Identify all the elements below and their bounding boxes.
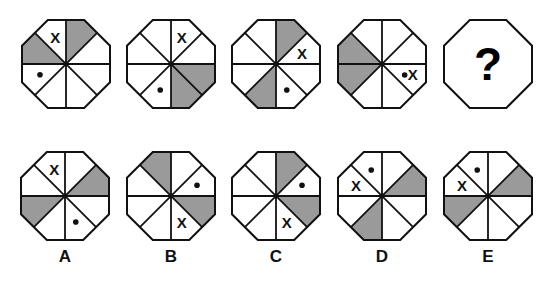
dot-marker: [37, 72, 43, 78]
x-marker: X: [408, 66, 418, 83]
x-marker: X: [457, 177, 467, 194]
center-point: [274, 62, 279, 67]
option-label: B: [165, 247, 177, 266]
center-point: [169, 62, 174, 67]
center-point: [486, 194, 491, 199]
option-label: D: [376, 247, 388, 266]
x-marker: X: [50, 29, 60, 46]
dot-marker: [368, 167, 374, 173]
dot-marker: [194, 182, 200, 188]
x-marker: X: [282, 214, 292, 231]
answer-option-a[interactable]: XA: [21, 152, 109, 266]
sequence-figure-2: X: [127, 20, 215, 108]
x-marker: X: [297, 45, 307, 62]
center-point: [169, 194, 174, 199]
center-point: [274, 194, 279, 199]
center-point: [63, 194, 68, 199]
sequence-figure-4: X: [338, 20, 426, 108]
answer-option-e[interactable]: XE: [444, 152, 532, 266]
sequence-row: XXXX?: [22, 20, 532, 108]
sequence-figure-3: X: [232, 20, 320, 108]
dot-marker: [402, 72, 408, 78]
center-point: [64, 62, 69, 67]
option-label: C: [270, 247, 282, 266]
center-point: [380, 194, 385, 199]
answer-option-c[interactable]: XC: [232, 152, 320, 266]
x-marker: X: [177, 214, 187, 231]
x-marker: X: [177, 29, 187, 46]
option-label: E: [482, 247, 493, 266]
question-mark: ?: [474, 38, 502, 90]
dot-marker: [299, 182, 305, 188]
missing-figure: ?: [444, 20, 532, 108]
center-point: [380, 62, 385, 67]
options-row: XAXBXCXDXE: [21, 152, 532, 266]
dot-marker: [73, 219, 79, 225]
puzzle-canvas: XXXX? XAXBXCXDXE: [0, 0, 551, 283]
x-marker: X: [49, 161, 59, 178]
dot-marker: [474, 167, 480, 173]
answer-option-d[interactable]: XD: [338, 152, 426, 266]
option-label: A: [59, 247, 71, 266]
dot-marker: [284, 87, 290, 93]
sequence-figure-1: X: [22, 20, 110, 108]
x-marker: X: [351, 177, 361, 194]
answer-option-b[interactable]: XB: [127, 152, 215, 266]
dot-marker: [157, 87, 163, 93]
